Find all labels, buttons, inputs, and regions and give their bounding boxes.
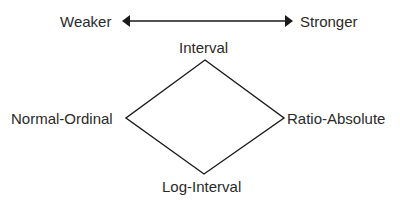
interval-label: Interval: [179, 40, 228, 55]
weaker-label: Weaker: [60, 14, 111, 29]
stronger-label: Stronger: [300, 14, 358, 29]
log-interval-label: Log-Interval: [162, 179, 241, 194]
normal-ordinal-label: Normal-Ordinal: [11, 111, 113, 126]
diagram-canvas: [0, 0, 400, 207]
ratio-absolute-label: Ratio-Absolute: [287, 111, 385, 126]
arrowhead-right-icon: [285, 15, 293, 27]
scale-diamond: [126, 60, 284, 174]
arrowhead-left-icon: [122, 15, 130, 27]
